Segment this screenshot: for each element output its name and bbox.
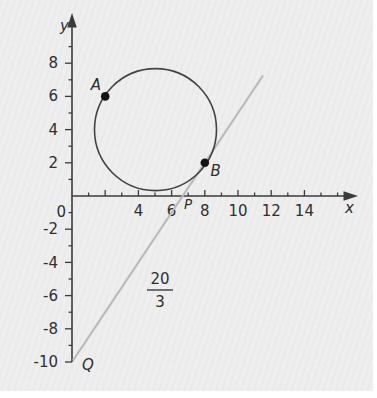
- y-axis-ticks: [65, 47, 72, 362]
- point-b-label: B: [211, 162, 221, 180]
- point-b: B: [201, 159, 221, 181]
- coordinate-plane-figure: y 8 6 4 2 -2 -4 -6 -8 -10 x 4 6 8: [0, 0, 377, 398]
- y-axis-tick-labels: 8 6 4 2 -2 -4 -6 -8 -10: [34, 54, 59, 371]
- x-tick-label-4: 4: [134, 202, 144, 220]
- x-axis-label: x: [344, 199, 354, 217]
- y-tick-label-n8: -8: [43, 320, 58, 338]
- fraction-denominator: 3: [155, 293, 165, 311]
- figure-canvas: y 8 6 4 2 -2 -4 -6 -8 -10 x 4 6 8: [0, 0, 377, 398]
- x-axis-tick-labels: 4 6 8 10 12 14: [134, 202, 314, 220]
- origin-label: 0: [56, 203, 66, 221]
- y-tick-label-6: 6: [48, 87, 58, 105]
- point-q-label: Q: [82, 356, 94, 374]
- point-p-label: P: [184, 196, 193, 212]
- y-axis-label: y: [59, 17, 70, 35]
- y-tick-label-n10: -10: [34, 353, 59, 371]
- y-tick-label-n2: -2: [43, 220, 58, 238]
- y-axis: y 8 6 4 2 -2 -4 -6 -8 -10: [34, 13, 77, 371]
- x-axis-ticks: [89, 190, 338, 196]
- point-b-dot: [201, 159, 210, 168]
- fraction-numerator: 20: [150, 270, 169, 288]
- x-tick-label-14: 14: [295, 202, 314, 220]
- x-tick-label-8: 8: [200, 202, 210, 220]
- point-a-dot: [101, 92, 110, 101]
- y-tick-label-2: 2: [48, 154, 58, 172]
- y-tick-label-n4: -4: [43, 254, 58, 272]
- y-tick-label-8: 8: [48, 54, 58, 72]
- x-tick-label-10: 10: [228, 202, 247, 220]
- y-tick-label-4: 4: [48, 121, 58, 139]
- point-a-label: A: [90, 76, 101, 94]
- point-a: A: [90, 76, 110, 101]
- y-tick-label-n6: -6: [43, 287, 58, 305]
- x-axis: x 4 6 8 10 12 14 0: [56, 190, 358, 221]
- circle: [95, 69, 217, 191]
- x-tick-label-12: 12: [262, 202, 281, 220]
- fraction-20-3: 20 3: [147, 270, 173, 311]
